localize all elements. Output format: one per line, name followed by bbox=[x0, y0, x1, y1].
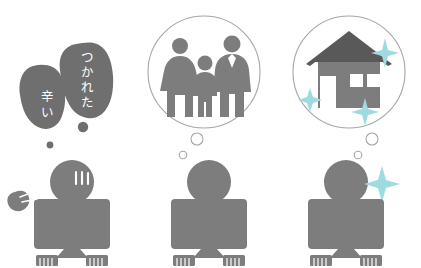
thought-bubble-large-2 bbox=[191, 133, 203, 145]
figure1-body bbox=[34, 199, 110, 249]
thought-bubble-small-3 bbox=[354, 151, 362, 159]
figure1-keyboard-left bbox=[36, 255, 58, 266]
figure3-stand bbox=[330, 249, 362, 258]
panel-house bbox=[293, 16, 405, 266]
blob-tsukareta-char-2: か bbox=[81, 65, 94, 80]
figure1-keyboard-right bbox=[86, 255, 108, 266]
illustration-canvas: ストレスを抱えた人でも家族も家も手に入る 辛 い つ か れ た bbox=[0, 0, 421, 268]
blob-tsukareta: つ か れ た bbox=[60, 43, 114, 119]
panel-family bbox=[148, 16, 260, 266]
thought-dot-large bbox=[78, 122, 88, 132]
house-garage bbox=[320, 76, 336, 108]
thought-bubble-small-2 bbox=[179, 151, 187, 159]
figure2-keyboard-right bbox=[223, 255, 245, 266]
figure3-keyboard-right bbox=[360, 255, 382, 266]
blob-tsurai: 辛 い bbox=[20, 65, 66, 129]
family-father-head bbox=[224, 36, 241, 53]
figure2-stand bbox=[193, 249, 225, 258]
blob-tsukareta-char-4: た bbox=[81, 95, 94, 110]
figure3-keyboard-left bbox=[310, 255, 332, 266]
house-window-left bbox=[350, 74, 363, 87]
blob-tsurai-char-2: い bbox=[41, 105, 54, 120]
figure1-stand bbox=[56, 249, 88, 258]
blob-tsukareta-char-1: つ bbox=[81, 50, 94, 65]
figure2-body bbox=[171, 199, 247, 249]
stress-burst-icon bbox=[7, 191, 37, 211]
thought-dot-small bbox=[47, 142, 54, 149]
family-child-head bbox=[198, 56, 213, 71]
family-mother-head bbox=[172, 38, 188, 54]
figure3-head bbox=[324, 160, 368, 204]
house-window-right bbox=[367, 74, 380, 87]
thought-bubble-large-3 bbox=[366, 133, 378, 145]
blob-tsukareta-char-3: れ bbox=[81, 80, 94, 95]
figure2-keyboard-left bbox=[173, 255, 195, 266]
figure3-body bbox=[308, 199, 384, 249]
figure2-head bbox=[187, 160, 231, 204]
panel-stressed: 辛 い つ か れ た bbox=[7, 43, 113, 266]
scene-artwork: 辛 い つ か れ た bbox=[0, 0, 421, 268]
sparkle-icon-4 bbox=[364, 166, 400, 202]
blob-tsurai-char-1: 辛 bbox=[41, 89, 54, 104]
